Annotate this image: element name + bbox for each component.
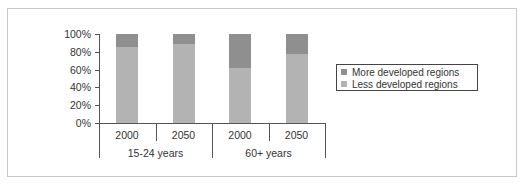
bar-3 [286, 34, 308, 123]
bar-segment-less-developed [173, 44, 195, 123]
category-separator [269, 123, 270, 141]
y-tick [95, 87, 99, 88]
legend-item-less-developed: Less developed regions [341, 78, 473, 90]
group-label: 60+ years [212, 147, 325, 159]
bar-segment-more-developed [229, 34, 251, 68]
y-tick-label: 80% [51, 46, 91, 58]
y-tick [95, 70, 99, 71]
bar-segment-less-developed [116, 47, 138, 123]
y-tick-label: 100% [51, 28, 91, 40]
x-tick-label: 2050 [156, 129, 212, 141]
y-tick-label: 20% [51, 99, 91, 111]
bar-1 [173, 34, 195, 123]
bar-segment-less-developed [229, 68, 251, 123]
category-separator [156, 123, 157, 141]
y-tick [95, 105, 99, 106]
y-tick-label: 40% [51, 81, 91, 93]
legend-swatch-less-developed [341, 81, 347, 87]
legend-item-more-developed: More developed regions [341, 66, 473, 78]
group-label: 15-24 years [99, 147, 212, 159]
y-axis-line [99, 34, 100, 123]
bar-0 [116, 34, 138, 123]
bar-2 [229, 34, 251, 123]
x-tick-label: 2050 [269, 129, 325, 141]
y-tick [95, 34, 99, 35]
bar-segment-more-developed [286, 34, 308, 54]
bar-segment-more-developed [116, 34, 138, 47]
legend-label-less-developed: Less developed regions [352, 79, 458, 90]
legend-label-more-developed: More developed regions [352, 67, 459, 78]
x-tick-label: 2000 [212, 129, 268, 141]
y-tick-label: 60% [51, 64, 91, 76]
bar-segment-less-developed [286, 54, 308, 123]
y-tick [95, 52, 99, 53]
chart-legend: More developed regions Less developed re… [336, 64, 478, 91]
x-tick-label: 2000 [99, 129, 155, 141]
legend-swatch-more-developed [341, 69, 347, 75]
bar-segment-more-developed [173, 34, 195, 44]
category-separator [325, 123, 326, 158]
stacked-bar-chart: 0%20%40%60%80%100% 200020502000205015-24… [0, 0, 528, 185]
y-tick-label: 0% [51, 117, 91, 129]
